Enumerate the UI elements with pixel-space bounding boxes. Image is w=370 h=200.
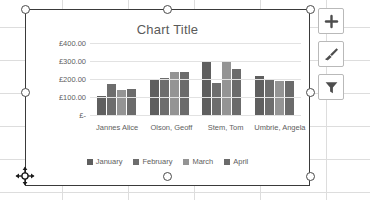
legend-swatch — [183, 159, 189, 165]
gridline — [90, 79, 301, 80]
y-tick-label: £100.00 — [59, 93, 86, 102]
legend-item[interactable]: February — [133, 157, 172, 166]
category-label: Jannes Alice — [90, 123, 144, 133]
legend-label: February — [142, 157, 172, 166]
chart-filters-button[interactable] — [318, 74, 344, 100]
y-tick-label: £- — [79, 111, 86, 120]
resize-handle-middle-left[interactable] — [21, 88, 30, 97]
bar[interactable] — [117, 90, 126, 115]
y-tick-label: £200.00 — [59, 75, 86, 84]
legend-swatch — [87, 159, 93, 165]
brush-icon — [323, 46, 339, 62]
plus-icon — [324, 14, 339, 29]
gridline — [90, 115, 301, 116]
legend-item[interactable]: January — [87, 157, 123, 166]
y-axis[interactable]: £-£100.00£200.00£300.00£400.00 — [34, 43, 88, 115]
y-tick-label: £300.00 — [59, 57, 86, 66]
resize-handle-top-center[interactable] — [163, 5, 172, 14]
move-cursor-icon — [15, 166, 35, 186]
bar[interactable] — [127, 89, 136, 115]
legend-item[interactable]: March — [183, 157, 213, 166]
resize-handle-bottom-right[interactable] — [306, 172, 315, 181]
chart-legend[interactable]: JanuaryFebruaryMarchApril — [26, 157, 309, 166]
gridline — [90, 97, 301, 98]
bar[interactable] — [275, 81, 284, 115]
gridline — [90, 61, 301, 62]
legend-label: January — [96, 157, 123, 166]
gridline — [90, 43, 301, 44]
bar[interactable] — [212, 83, 221, 115]
bar[interactable] — [97, 96, 106, 115]
bar[interactable] — [202, 62, 211, 115]
legend-label: March — [192, 157, 213, 166]
bar[interactable] — [285, 81, 294, 115]
category-axis[interactable]: Jannes AliceOlson, GeoffStem, TomUmbrie,… — [90, 123, 307, 133]
chart-title[interactable]: Chart Title — [26, 22, 309, 37]
plot-area[interactable] — [90, 43, 301, 115]
resize-handle-top-left[interactable] — [21, 5, 30, 14]
funnel-icon — [324, 80, 339, 95]
legend-swatch — [133, 159, 139, 165]
bar[interactable] — [107, 84, 116, 115]
resize-handle-top-right[interactable] — [306, 5, 315, 14]
chart-elements-button[interactable] — [318, 8, 344, 34]
y-tick-label: £400.00 — [59, 39, 86, 48]
category-label: Stem, Tom — [199, 123, 253, 133]
legend-label: April — [233, 157, 248, 166]
chart-object[interactable]: Chart Title £-£100.00£200.00£300.00£400.… — [25, 9, 310, 186]
chart-styles-button[interactable] — [318, 41, 344, 67]
category-label: Umbrie, Angela — [253, 123, 307, 133]
category-label: Olson, Geoff — [144, 123, 198, 133]
chart-buttons-panel[interactable] — [318, 8, 344, 100]
bar[interactable] — [232, 69, 241, 115]
bar[interactable] — [255, 76, 264, 115]
plot-wrapper: £-£100.00£200.00£300.00£400.00 — [34, 43, 303, 121]
resize-handle-bottom-center[interactable] — [163, 172, 172, 181]
legend-swatch — [224, 159, 230, 165]
bar[interactable] — [222, 62, 231, 115]
resize-handle-middle-right[interactable] — [306, 88, 315, 97]
legend-item[interactable]: April — [224, 157, 248, 166]
